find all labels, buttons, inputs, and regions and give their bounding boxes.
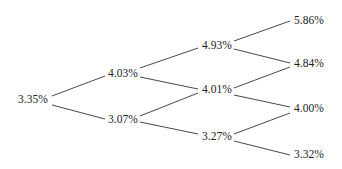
node-t1-up: 4.03% [108,68,138,80]
node-t2-dd: 3.27% [202,131,232,143]
node-t3-udd: 4.00% [294,103,324,115]
node-t3-uuu: 5.86% [294,15,324,27]
node-t2-uu: 4.93% [202,40,232,52]
node-t3-ddd: 3.32% [294,149,324,161]
node-t3-uud: 4.84% [294,58,324,70]
tree-edges [0,0,342,169]
rate-tree-diagram: 3.35% 4.03% 3.07% 4.93% 4.01% 3.27% 5.86… [0,0,342,169]
node-t0-0: 3.35% [18,94,48,106]
node-t2-ud: 4.01% [202,84,232,96]
node-t1-down: 3.07% [108,114,138,126]
